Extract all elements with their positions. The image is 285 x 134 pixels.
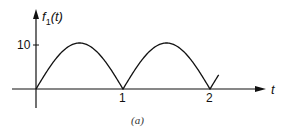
x-axis-arrow-icon (255, 86, 266, 92)
figure-caption: (a) (131, 115, 144, 126)
y-axis-label: f1(t) (42, 10, 63, 27)
x-tick-label-1: 1 (119, 92, 126, 104)
x-tick-label-2: 2 (206, 92, 213, 104)
y-axis-arrow-icon (33, 9, 39, 19)
curve-path (36, 43, 219, 89)
x-axis-label: t (271, 83, 275, 96)
y-tick-label-10: 10 (17, 39, 30, 51)
curve-f1 (36, 43, 219, 89)
